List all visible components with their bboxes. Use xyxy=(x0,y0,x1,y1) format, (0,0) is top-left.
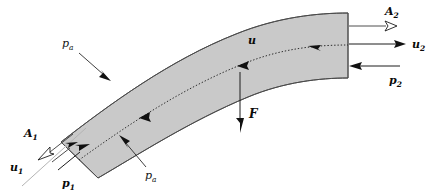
inlet-pressure-label: p1 xyxy=(62,177,75,191)
force-arrowhead-icon xyxy=(236,118,244,133)
inlet-area-arrowhead-icon xyxy=(38,147,54,160)
ambient-pressure-top-leader xyxy=(79,53,104,75)
duct-body-group xyxy=(61,13,348,178)
outlet-velocity-label: u2 xyxy=(412,38,425,53)
ambient-pressure-top-label: pa xyxy=(62,37,74,52)
inlet-velocity-label: u1 xyxy=(10,161,23,176)
outlet-velocity-annotation: u2 xyxy=(349,38,425,53)
outlet-pressure-annotation: p2 xyxy=(349,62,402,89)
mid-velocity-label: u xyxy=(248,34,256,47)
force-label: F xyxy=(248,107,259,121)
ambient-pressure-top-annotation: pa xyxy=(62,37,111,81)
outlet-area-label: A2 xyxy=(384,5,399,20)
outlet-area-annotation: A2 xyxy=(349,5,399,31)
duct-body xyxy=(61,13,348,178)
outlet-pressure-label: p2 xyxy=(389,74,402,89)
duct-diagram-figure: A2 u2 p2 u pa xyxy=(0,0,446,191)
duct-diagram-svg: A2 u2 p2 u pa xyxy=(0,0,446,191)
ambient-pressure-bottom-label: pa xyxy=(145,169,157,184)
outlet-area-arrowhead-icon xyxy=(385,21,397,31)
inlet-area-label: A1 xyxy=(23,127,38,142)
